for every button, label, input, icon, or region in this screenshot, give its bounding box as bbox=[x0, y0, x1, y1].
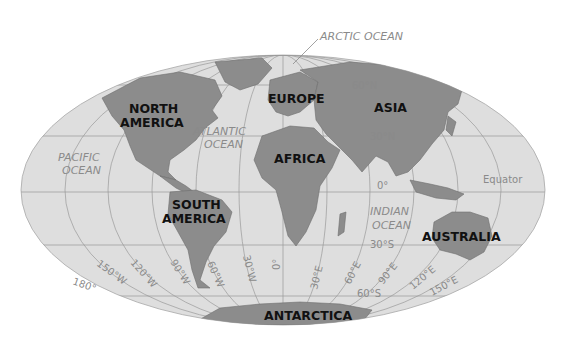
svg-text:ARCTIC OCEAN: ARCTIC OCEAN bbox=[319, 30, 403, 43]
pacific-ocean-label-1: PACIFIC bbox=[58, 151, 100, 164]
atlantic-ocean-label-1: ATLANTIC bbox=[192, 125, 246, 138]
svg-text:ANTARCTICA: ANTARCTICA bbox=[264, 308, 353, 323]
svg-text:AMERICA: AMERICA bbox=[162, 211, 226, 226]
svg-text:30°N: 30°N bbox=[370, 131, 395, 142]
antarctica-label: ANTARCTICA bbox=[264, 308, 353, 323]
lat-30s: 30°S bbox=[370, 239, 394, 250]
svg-text:EUROPE: EUROPE bbox=[268, 91, 325, 106]
lon-0: 0° bbox=[271, 259, 282, 270]
svg-text:OCEAN: OCEAN bbox=[204, 138, 243, 151]
south-america-label-2: AMERICA bbox=[162, 211, 226, 226]
svg-text:OCEAN: OCEAN bbox=[62, 164, 101, 177]
svg-text:ATLANTIC: ATLANTIC bbox=[192, 125, 246, 138]
svg-text:AMERICA: AMERICA bbox=[120, 115, 184, 130]
lat-30n: 30°N bbox=[370, 131, 395, 142]
svg-text:30°S: 30°S bbox=[370, 239, 394, 250]
svg-text:AFRICA: AFRICA bbox=[274, 151, 326, 166]
svg-text:ASIA: ASIA bbox=[374, 100, 407, 115]
lat-60n: 60°N bbox=[352, 80, 377, 91]
svg-text:0°: 0° bbox=[377, 180, 388, 191]
europe-label: EUROPE bbox=[268, 91, 325, 106]
pacific-ocean-label-2: OCEAN bbox=[62, 164, 101, 177]
lat-60s: 60°S bbox=[357, 288, 381, 299]
north-america-label-1: NORTH bbox=[129, 101, 178, 116]
svg-text:OCEAN: OCEAN bbox=[372, 219, 411, 232]
north-america-label-2: AMERICA bbox=[120, 115, 184, 130]
svg-text:NORTH: NORTH bbox=[129, 101, 178, 116]
lat-0: 0° bbox=[377, 180, 388, 191]
australia-label: AUSTRALIA bbox=[422, 229, 501, 244]
indian-ocean-label-1: INDIAN bbox=[370, 205, 409, 218]
svg-text:AUSTRALIA: AUSTRALIA bbox=[422, 229, 501, 244]
svg-text:INDIAN: INDIAN bbox=[370, 205, 409, 218]
svg-text:SOUTH: SOUTH bbox=[172, 197, 221, 212]
svg-text:60°N: 60°N bbox=[352, 80, 377, 91]
svg-text:0°: 0° bbox=[271, 259, 282, 270]
south-america-label-1: SOUTH bbox=[172, 197, 221, 212]
atlantic-ocean-label-2: OCEAN bbox=[204, 138, 243, 151]
svg-text:Equator: Equator bbox=[483, 174, 523, 185]
equator-label: Equator bbox=[483, 174, 523, 185]
africa-label: AFRICA bbox=[274, 151, 326, 166]
svg-text:PACIFIC: PACIFIC bbox=[58, 151, 100, 164]
prime-meridian-label: 0° bbox=[271, 259, 282, 270]
svg-text:60°S: 60°S bbox=[357, 288, 381, 299]
arctic-ocean-label: ARCTIC OCEAN bbox=[319, 30, 403, 43]
world-map: 60°N 30°N 0° 30°S 60°S Equator 180° 150°… bbox=[0, 0, 575, 341]
asia-label: ASIA bbox=[374, 100, 407, 115]
indian-ocean-label-2: OCEAN bbox=[372, 219, 411, 232]
